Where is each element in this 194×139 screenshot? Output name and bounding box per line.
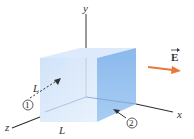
arrowhead-icon <box>177 48 180 52</box>
face-two-number: 2 <box>129 118 134 128</box>
z-axis <box>12 117 40 128</box>
electric-field-arrow <box>148 67 173 70</box>
arrowhead-icon <box>171 66 181 74</box>
width-edge-label: L <box>58 124 65 136</box>
x-axis-label: x <box>176 108 182 120</box>
x-axis <box>136 104 173 112</box>
y-axis-label: y <box>82 2 88 14</box>
cube-front-face <box>40 58 97 122</box>
depth-edge-label: L <box>32 82 39 94</box>
z-axis-label: z <box>4 121 10 133</box>
diagram-canvas: y x z 1 L 2 L E <box>0 0 194 139</box>
electric-field-label: E <box>171 51 178 63</box>
face-one-number: 1 <box>25 100 30 110</box>
